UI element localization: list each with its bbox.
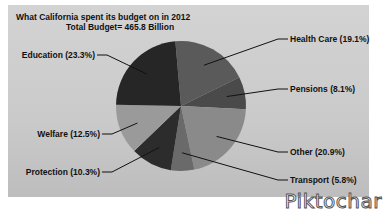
pie-chart: Health Care (19.1%)Pensions (8.1%)Other … bbox=[0, 0, 386, 213]
slice-label: Protection (10.3%) bbox=[26, 167, 100, 177]
slice-label: Pensions (8.1%) bbox=[290, 84, 355, 94]
slice-label: Welfare (12.5%) bbox=[37, 129, 100, 139]
slice-label: Education (23.3%) bbox=[22, 50, 95, 60]
pie-slice-education bbox=[116, 41, 181, 106]
piktochart-watermark: Piktochar bbox=[285, 189, 383, 213]
slice-label: Health Care (19.1%) bbox=[290, 34, 370, 44]
slice-label: Transport (5.8%) bbox=[290, 175, 357, 185]
slice-label: Other (20.9%) bbox=[290, 147, 345, 157]
